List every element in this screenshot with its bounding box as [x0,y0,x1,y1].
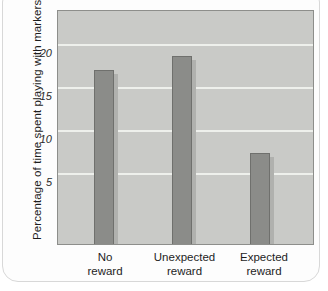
chart-figure: Percentage of time spent playing with ma… [0,0,328,291]
x-tick-label-no-reward: No reward [65,250,145,278]
y-axis-tick-labels: 20 15 10 5 [18,10,52,245]
y-tick-label-15: 15 [22,90,52,102]
bar-expected-reward[interactable] [250,153,270,245]
gridline-20 [58,44,313,46]
x-tick-label-expected-reward: Expected reward [223,250,305,278]
bar-unexpected-reward[interactable] [172,56,192,245]
x-tick-label-expected-reward-line2: reward [223,264,305,278]
y-tick-label-10: 10 [22,133,52,145]
y-tick-label-20: 20 [22,47,52,59]
x-tick-label-unexpected-reward: Unexpected reward [142,250,227,278]
x-axis-tick-labels: No reward Unexpected reward Expected rew… [57,250,314,290]
x-tick-label-unexpected-reward-line1: Unexpected [142,250,227,264]
x-tick-label-no-reward-line2: reward [65,264,145,278]
plot-area [57,10,314,245]
bar-no-reward[interactable] [94,70,114,245]
x-tick-label-no-reward-line1: No [65,250,145,264]
x-tick-label-expected-reward-line1: Expected [223,250,305,264]
x-tick-label-unexpected-reward-line2: reward [142,264,227,278]
y-tick-label-5: 5 [22,176,52,188]
